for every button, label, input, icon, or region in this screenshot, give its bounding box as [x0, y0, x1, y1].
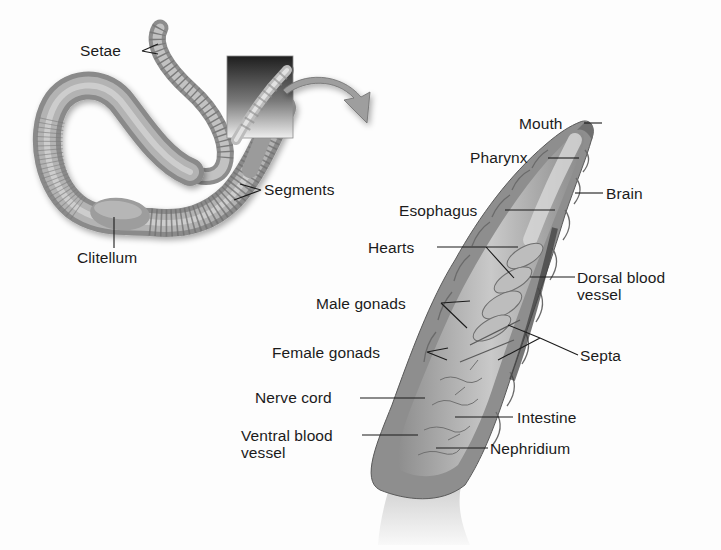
label-hearts: Hearts [368, 239, 414, 256]
label-mouth: Mouth [519, 115, 563, 132]
inset-magnify-box [227, 56, 293, 140]
label-pharynx: Pharynx [470, 149, 528, 166]
label-brain: Brain [606, 185, 643, 202]
label-setae: Setae [80, 42, 121, 59]
label-female-gonads: Female gonads [272, 344, 380, 361]
label-nerve-cord: Nerve cord [255, 389, 332, 406]
cutaway-illustration [371, 121, 593, 545]
earthworm-anatomy-diagram: Setae Segments Clitellum Mouth Pharynx B… [0, 0, 721, 550]
label-intestine: Intestine [517, 409, 577, 426]
label-segments: Segments [264, 181, 335, 198]
label-ventral-blood-vessel: Ventral blood vessel [241, 427, 333, 461]
label-dorsal-blood-vessel: Dorsal blood vessel [577, 269, 665, 303]
magnify-arrow [283, 77, 370, 123]
label-male-gonads: Male gonads [316, 295, 406, 312]
label-septa: Septa [580, 347, 621, 364]
label-esophagus: Esophagus [399, 202, 477, 219]
label-clitellum: Clitellum [77, 249, 137, 266]
label-nephridium: Nephridium [490, 440, 570, 457]
